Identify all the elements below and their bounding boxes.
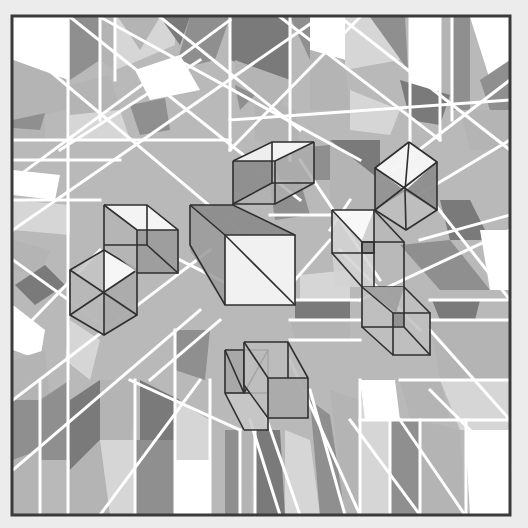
tile-62	[420, 420, 465, 515]
cube-right-middle-face-2	[362, 242, 374, 253]
tile-65	[432, 300, 480, 320]
tile-54	[255, 430, 285, 515]
tile-60	[390, 420, 420, 515]
tile-48	[135, 440, 175, 515]
tile-71	[290, 320, 350, 340]
tile-64	[465, 430, 510, 515]
tile-59	[360, 380, 400, 420]
tile-70	[295, 300, 350, 320]
tile-52	[225, 430, 240, 515]
geometric-artwork	[0, 0, 528, 528]
tile-50	[175, 460, 210, 515]
cube-bottom-center-b-face-1	[268, 378, 308, 418]
cube-right-lower-face-2	[393, 313, 404, 326]
tile-69	[430, 320, 510, 380]
tile-34	[13, 200, 70, 235]
tile-25	[452, 17, 470, 110]
